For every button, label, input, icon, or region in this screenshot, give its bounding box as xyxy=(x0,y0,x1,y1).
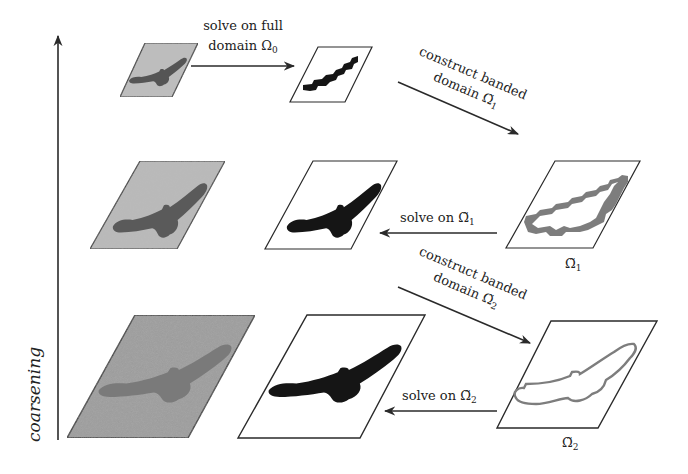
arrow-solve-band-1: solve on Ω̃1 xyxy=(380,210,497,233)
panel-segmentation xyxy=(290,47,372,102)
axis-label: coarsening xyxy=(24,347,44,442)
panel-noisy-input xyxy=(90,161,225,249)
row-coarsest: solve on full domain Ω0 construct banded… xyxy=(120,18,529,134)
arrow-construct-band-1: construct banded domain Ω̃1 xyxy=(398,44,529,134)
arrow-label: solve on Ω̃2 xyxy=(402,388,477,405)
arrow-label-line2: domain Ω0 xyxy=(208,38,278,55)
panel-noisy-input xyxy=(67,315,255,438)
multilevel-segmentation-diagram: coarsening solve on full domain Ω0 const… xyxy=(0,0,688,474)
panel-segmentation xyxy=(265,161,397,249)
coarsening-axis: coarsening xyxy=(24,36,58,442)
panel-caption: Ω̃1 xyxy=(565,256,582,273)
arrow-solve-full: solve on full domain Ω0 xyxy=(191,18,294,66)
panel-noisy-input xyxy=(120,43,198,97)
panel-caption: Ω̃2 xyxy=(562,435,579,452)
panel-banded-domain: Ω̃1 xyxy=(506,161,640,273)
arrow-label-line1: solve on full xyxy=(203,18,283,33)
panel-segmentation xyxy=(238,315,425,438)
row-finest: solve on Ω̃2 Ω̃2 xyxy=(67,315,657,452)
arrow-label: solve on Ω̃1 xyxy=(400,210,475,227)
panel-banded-domain: Ω̃2 xyxy=(497,321,657,452)
arrow-solve-band-2: solve on Ω̃2 xyxy=(385,388,497,411)
